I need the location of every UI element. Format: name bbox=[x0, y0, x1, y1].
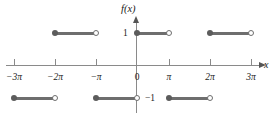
x-tick-3pi bbox=[251, 59, 252, 66]
x-tick-label-neg-2pi: −2π bbox=[41, 72, 69, 83]
x-axis-label: x bbox=[264, 59, 268, 70]
open-endpoint-3pi-upper bbox=[248, 30, 254, 36]
x-tick-label-3pi: 3π bbox=[237, 72, 265, 83]
closed-endpoint-origin bbox=[134, 30, 140, 36]
segment-pos1-c bbox=[210, 32, 251, 35]
segment-neg1-a bbox=[14, 97, 55, 100]
closed-endpoint-neg2pi bbox=[52, 30, 58, 36]
x-tick-label-neg-pi: −π bbox=[82, 72, 110, 83]
segment-pos1-a bbox=[55, 32, 96, 35]
x-axis-line bbox=[6, 65, 259, 66]
open-endpoint-neg2pi-lower bbox=[52, 95, 58, 101]
open-endpoint-pi-upper bbox=[166, 30, 172, 36]
x-tick-neg-3pi bbox=[14, 59, 15, 66]
segment-neg1-b bbox=[96, 97, 137, 100]
x-tick-neg-2pi bbox=[55, 59, 56, 66]
segment-neg1-c bbox=[169, 97, 210, 100]
open-endpoint-2pi-lower bbox=[207, 95, 213, 101]
x-tick-2pi bbox=[210, 59, 211, 66]
x-tick-label-neg-3pi: −3π bbox=[0, 72, 28, 83]
closed-endpoint-2pi bbox=[207, 30, 213, 36]
segment-pos1-b bbox=[137, 32, 169, 35]
x-tick-label-2pi: 2π bbox=[196, 72, 224, 83]
closed-endpoint-neg3pi bbox=[11, 95, 17, 101]
closed-endpoint-pi bbox=[166, 95, 172, 101]
y-axis-arrowhead-icon bbox=[133, 16, 139, 23]
x-tick-label-pi: π bbox=[155, 72, 183, 83]
function-graph-figure: f(x) x −3π −2π −π 0 π 2π 3π 1 −1 bbox=[0, 0, 276, 118]
closed-endpoint-negpi bbox=[93, 95, 99, 101]
y-tick-label-one: 1 bbox=[123, 28, 128, 39]
y-axis-label: f(x) bbox=[121, 3, 136, 14]
x-tick-neg-pi bbox=[96, 59, 97, 66]
x-tick-pi bbox=[169, 59, 170, 66]
open-endpoint-origin-lower bbox=[134, 95, 140, 101]
y-tick-label-neg-one: −1 bbox=[145, 93, 155, 104]
x-tick-label-origin: 0 bbox=[123, 72, 151, 83]
open-endpoint-negpi-upper bbox=[93, 30, 99, 36]
